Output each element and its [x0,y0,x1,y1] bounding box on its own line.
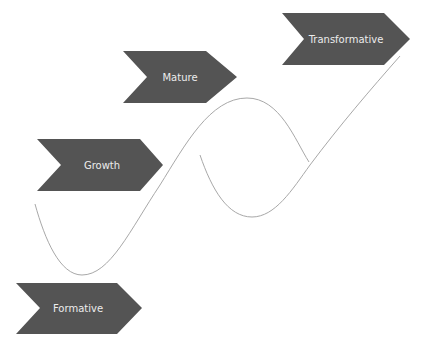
stage-label-mature: Mature [162,72,197,83]
stage-label-growth: Growth [84,160,120,171]
stage-label-formative: Formative [53,303,103,314]
stage-label-transformative: Transformative [308,34,384,45]
maturity-diagram: Mature Transformative Growth Formative [0,0,424,349]
stage-chevron-growth: Growth [37,139,163,191]
stage-chevron-formative: Formative [16,283,142,334]
stage-chevron-mature: Mature [123,51,237,103]
stage-chevron-transformative: Transformative [282,13,410,65]
